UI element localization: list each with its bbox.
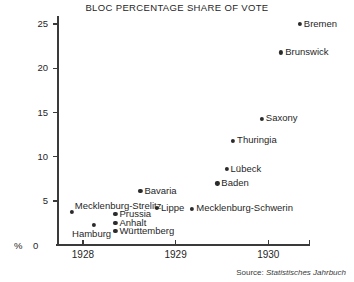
y-axis-unit-label: % [14, 240, 22, 251]
y-tick-label: 20 [12, 63, 48, 72]
y-tick-label: 10 [12, 152, 48, 161]
chart-container: BLOC PERCENTAGE SHARE OF VOTE % 0 510152… [0, 0, 354, 282]
data-point-label: Baden [221, 178, 248, 188]
data-point-label: Lübeck [231, 164, 262, 174]
source-note: Source: Statistisches Jahrbuch [236, 268, 346, 277]
data-point-label: Saxony [266, 113, 298, 123]
y-tick-mark [53, 156, 58, 157]
y-axis-line [57, 16, 59, 246]
data-point [298, 22, 302, 26]
data-point-label: Hamburg [72, 229, 111, 239]
data-point [224, 167, 228, 171]
y-tick-label: 5 [12, 196, 48, 205]
y-tick-mark [53, 23, 58, 24]
data-point-label: Lippe [161, 203, 184, 213]
x-tick-label: 1929 [146, 249, 206, 260]
y-tick-mark [53, 68, 58, 69]
source-publication: Statistisches Jahrbuch [266, 268, 346, 277]
data-point-label: Württemberg [119, 226, 174, 236]
data-point [215, 181, 219, 185]
source-prefix: Source: [236, 268, 264, 277]
x-tick-mark [175, 240, 176, 245]
y-axis-zero-label: 0 [33, 240, 38, 251]
x-tick-mark [268, 240, 269, 245]
data-point [70, 209, 74, 213]
chart-title: BLOC PERCENTAGE SHARE OF VOTE [0, 2, 354, 13]
x-axis-line [56, 244, 310, 246]
y-tick-label: 25 [12, 19, 48, 28]
data-point [113, 221, 117, 225]
data-point [231, 139, 235, 143]
x-tick-label: 1928 [53, 249, 113, 260]
data-point-label: Thuringia [237, 135, 277, 145]
y-tick-mark [53, 112, 58, 113]
y-tick-label: 15 [12, 108, 48, 117]
data-point [138, 189, 142, 193]
data-point [260, 117, 264, 121]
data-point [190, 207, 194, 211]
data-point-label: Bavaria [144, 186, 176, 196]
x-tick-mark [82, 240, 83, 245]
data-point-label: Mecklenburg-Schwerin [196, 203, 293, 213]
x-axis-end-cap [309, 240, 310, 245]
data-point [113, 212, 117, 216]
data-point-label: Brunswick [285, 47, 328, 57]
x-tick-label: 1930 [238, 249, 298, 260]
data-point [113, 229, 117, 233]
data-point-label: Bremen [304, 19, 337, 29]
y-tick-mark [53, 200, 58, 201]
data-point [279, 50, 283, 54]
data-point [92, 223, 96, 227]
